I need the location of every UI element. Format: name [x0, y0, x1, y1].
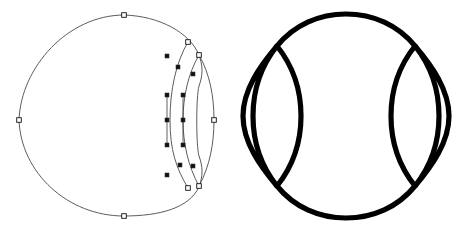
right-figure-outline-view[interactable]	[0, 0, 464, 230]
left-lens-outline-path[interactable]	[243, 46, 277, 186]
right-figure-paths[interactable]	[243, 14, 449, 218]
main-body-outline-path[interactable]	[277, 14, 415, 218]
drawing-canvas	[0, 0, 464, 230]
right-lens-outline-path[interactable]	[415, 46, 449, 186]
